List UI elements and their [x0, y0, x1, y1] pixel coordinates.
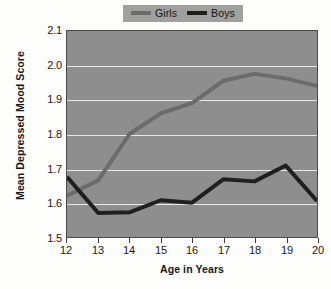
legend-entry-girls: Girls	[131, 7, 177, 19]
y-tick-label: 2.0	[34, 59, 62, 71]
series-line-girls	[67, 74, 317, 196]
legend-label-girls: Girls	[155, 7, 177, 19]
y-tick-label: 1.8	[34, 128, 62, 140]
x-tick-mark	[287, 238, 288, 243]
x-tick-label: 20	[303, 244, 331, 256]
x-tick-mark	[192, 238, 193, 243]
plot-area	[66, 30, 318, 238]
y-tick-label: 1.9	[34, 93, 62, 105]
y-tick-label: 2.1	[34, 24, 62, 36]
x-tick-label: 18	[240, 244, 270, 256]
y-axis-title-text: Mean Depressed Mood Score	[14, 51, 26, 200]
legend-swatch-girls	[131, 11, 151, 15]
x-tick-mark	[129, 238, 130, 243]
x-axis-tick-labels: 121314151617181920	[66, 238, 318, 266]
chart-legend: GirlsBoys	[123, 5, 243, 22]
x-tick-label: 12	[51, 244, 81, 256]
y-axis-title: Mean Depressed Mood Score	[8, 0, 32, 250]
legend-entry-boys: Boys	[187, 7, 235, 19]
y-tick-label: 1.6	[34, 197, 62, 209]
x-tick-label: 13	[83, 244, 113, 256]
x-tick-label: 15	[146, 244, 176, 256]
chart-figure: Mean Depressed Mood Score 1.51.61.71.81.…	[0, 0, 331, 289]
x-tick-label: 17	[209, 244, 239, 256]
x-tick-label: 14	[114, 244, 144, 256]
legend-swatch-boys	[187, 11, 207, 15]
x-tick-mark	[98, 238, 99, 243]
x-tick-label: 16	[177, 244, 207, 256]
series-svg	[67, 31, 317, 237]
x-tick-mark	[318, 238, 319, 243]
legend-label-boys: Boys	[211, 7, 235, 19]
x-tick-mark	[66, 238, 67, 243]
x-tick-mark	[224, 238, 225, 243]
y-tick-label: 1.5	[34, 232, 62, 244]
x-axis-title: Age in Years	[66, 263, 318, 275]
y-tick-label: 1.7	[34, 163, 62, 175]
x-tick-mark	[255, 238, 256, 243]
x-tick-label: 19	[272, 244, 302, 256]
x-tick-mark	[161, 238, 162, 243]
